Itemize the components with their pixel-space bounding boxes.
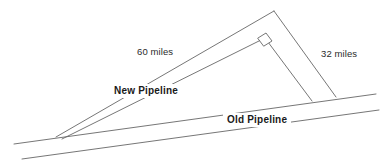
diagram-canvas bbox=[0, 0, 382, 166]
dimension-label-hypotenuse: 60 miles bbox=[134, 45, 176, 59]
old-pipeline-lower-line bbox=[22, 110, 379, 159]
right-leg-inner-line bbox=[265, 38, 312, 101]
dimension-label-vertical-leg: 32 miles bbox=[318, 47, 360, 61]
pipeline-diagram: 60 miles 32 miles New Pipeline Old Pipel… bbox=[0, 0, 382, 166]
old-pipeline-label: Old Pipeline bbox=[223, 113, 291, 127]
old-pipeline-upper-line bbox=[14, 94, 376, 144]
new-pipeline-label: New Pipeline bbox=[110, 84, 182, 98]
